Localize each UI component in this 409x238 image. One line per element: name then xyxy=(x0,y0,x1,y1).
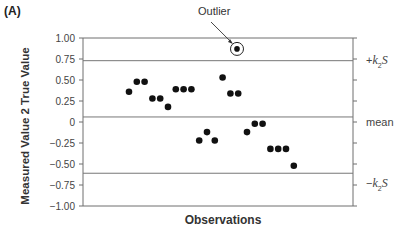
data-point xyxy=(165,104,172,111)
data-point xyxy=(283,146,290,153)
data-point xyxy=(275,146,282,153)
data-points xyxy=(126,74,297,169)
data-point xyxy=(219,74,226,81)
data-point xyxy=(126,88,133,95)
y-tick-label: 0.75 xyxy=(56,54,76,65)
data-point xyxy=(291,162,298,169)
data-point xyxy=(149,95,156,102)
outlier-arrow xyxy=(211,22,232,43)
outlier-point xyxy=(234,46,240,52)
axes: 1.000.750.500.250−0.25−0.50−0.75−1.00 xyxy=(50,33,357,212)
data-point xyxy=(204,129,211,136)
outlier-marker xyxy=(211,22,244,55)
y-tick-label: 1.00 xyxy=(56,33,76,44)
data-point xyxy=(180,86,187,93)
data-point xyxy=(252,120,259,127)
data-point xyxy=(188,86,195,93)
data-point xyxy=(212,137,219,144)
reference-lines xyxy=(83,61,353,174)
data-point xyxy=(244,129,251,136)
data-point xyxy=(173,86,180,93)
data-point xyxy=(235,90,242,97)
data-point xyxy=(134,78,141,85)
data-point xyxy=(157,95,164,102)
y-tick-label: 0.25 xyxy=(56,96,76,107)
scatter-chart: 1.000.750.500.250−0.25−0.50−0.75−1.00 xyxy=(0,0,409,238)
y-tick-label: −0.25 xyxy=(50,138,76,149)
data-point xyxy=(196,137,203,144)
y-tick-label: −0.75 xyxy=(50,180,76,191)
y-tick-label: −0.50 xyxy=(50,159,76,170)
data-point xyxy=(227,90,234,97)
y-tick-label: 0 xyxy=(69,117,75,128)
data-point xyxy=(259,120,266,127)
data-point xyxy=(267,146,274,153)
y-tick-label: 0.50 xyxy=(56,75,76,86)
data-point xyxy=(141,78,148,85)
y-tick-label: −1.00 xyxy=(50,201,76,212)
